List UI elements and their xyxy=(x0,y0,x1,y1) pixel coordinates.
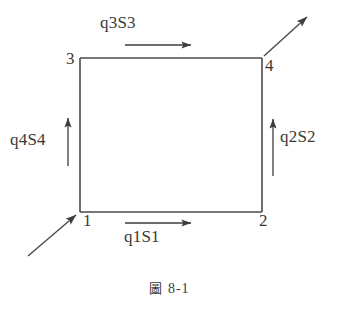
figure-caption-number: 8-1 xyxy=(168,281,190,296)
diagram-canvas xyxy=(0,0,339,320)
vertex-label-1: 1 xyxy=(83,212,92,229)
figure-caption: 圖 8-1 xyxy=(0,278,339,297)
figure-caption-cjk: 圖 xyxy=(149,281,163,296)
vertex-label-2: 2 xyxy=(259,212,268,229)
flow-label-q3s3: q3S3 xyxy=(100,14,136,31)
figure-diagram: 1 2 3 4 q3S3 q1S1 q4S4 q2S2 圖 8-1 xyxy=(0,0,339,320)
outflow-arrow-from-vertex-4 xyxy=(264,17,307,56)
vertex-label-3: 3 xyxy=(66,50,75,67)
flow-label-q2s2: q2S2 xyxy=(280,128,316,145)
flow-label-q4s4: q4S4 xyxy=(10,131,46,148)
vertex-label-4: 4 xyxy=(265,57,274,74)
flow-label-q1s1: q1S1 xyxy=(124,228,160,245)
inflow-arrow-to-vertex-1 xyxy=(28,215,76,256)
